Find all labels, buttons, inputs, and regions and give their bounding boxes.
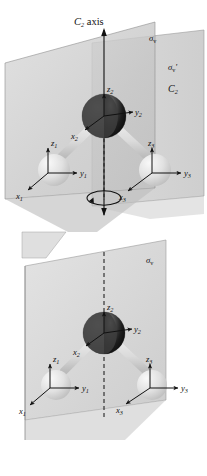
hydrogen-atom-left <box>38 154 70 186</box>
hydrogen-atom-left-bottom <box>41 370 71 400</box>
c2-axis-label: C2 axis <box>74 16 104 28</box>
top-panel: C2 axis σv σv' C2 z2 y2 x2 z1 y1 x1 z3 y… <box>5 16 204 232</box>
upper-plane-fragment <box>22 232 66 258</box>
bottom-panel: σv z2 y2 x2 z1 y1 x1 z3 y3 x3 <box>18 232 188 440</box>
mirror-plane-sigma-v <box>5 22 155 232</box>
sigma-v-label-top: σv <box>149 33 157 44</box>
hydrogen-atom-right <box>139 154 171 186</box>
hydrogen-atom-right-bottom <box>137 370 167 400</box>
c2-axis-arrowhead-top <box>101 28 107 36</box>
figure-symmetry-elements-water: C2 axis σv σv' C2 z2 y2 x2 z1 y1 x1 z3 y… <box>0 0 207 476</box>
label-y3-bottom: y3 <box>180 383 188 394</box>
